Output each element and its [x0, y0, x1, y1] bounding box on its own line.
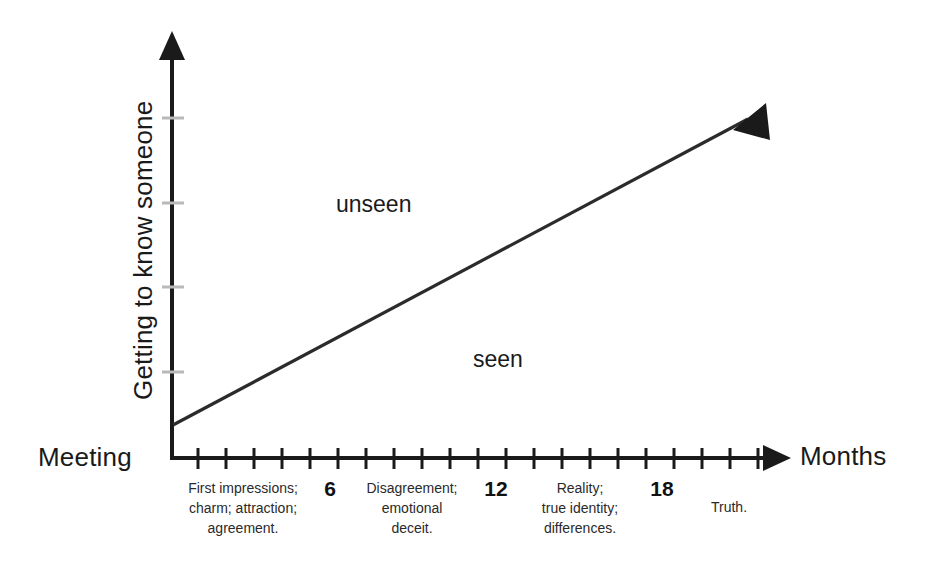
- chart-figure: Getting to know someone Months Meeting u…: [0, 0, 932, 576]
- trend-line: [173, 119, 748, 425]
- stage-note-3: Reality; true identity; differences.: [495, 479, 665, 539]
- x-axis-arrowhead: [763, 445, 791, 471]
- x-axis-title: Months: [800, 441, 886, 473]
- stage-note-4: Truth.: [669, 498, 789, 518]
- x-axis-ticks: [198, 448, 758, 469]
- stage-note-2: Disagreement; emotional deceit.: [330, 479, 495, 539]
- y-axis-title: Getting to know someone: [128, 101, 160, 400]
- region-label-seen: seen: [473, 345, 523, 373]
- trend-line-arrowhead: [733, 103, 770, 140]
- stage-note-1: First impressions; charm; attraction; ag…: [148, 479, 338, 539]
- y-axis-arrowhead: [159, 31, 185, 60]
- origin-label-meeting: Meeting: [38, 442, 132, 474]
- region-label-unseen: unseen: [336, 190, 411, 218]
